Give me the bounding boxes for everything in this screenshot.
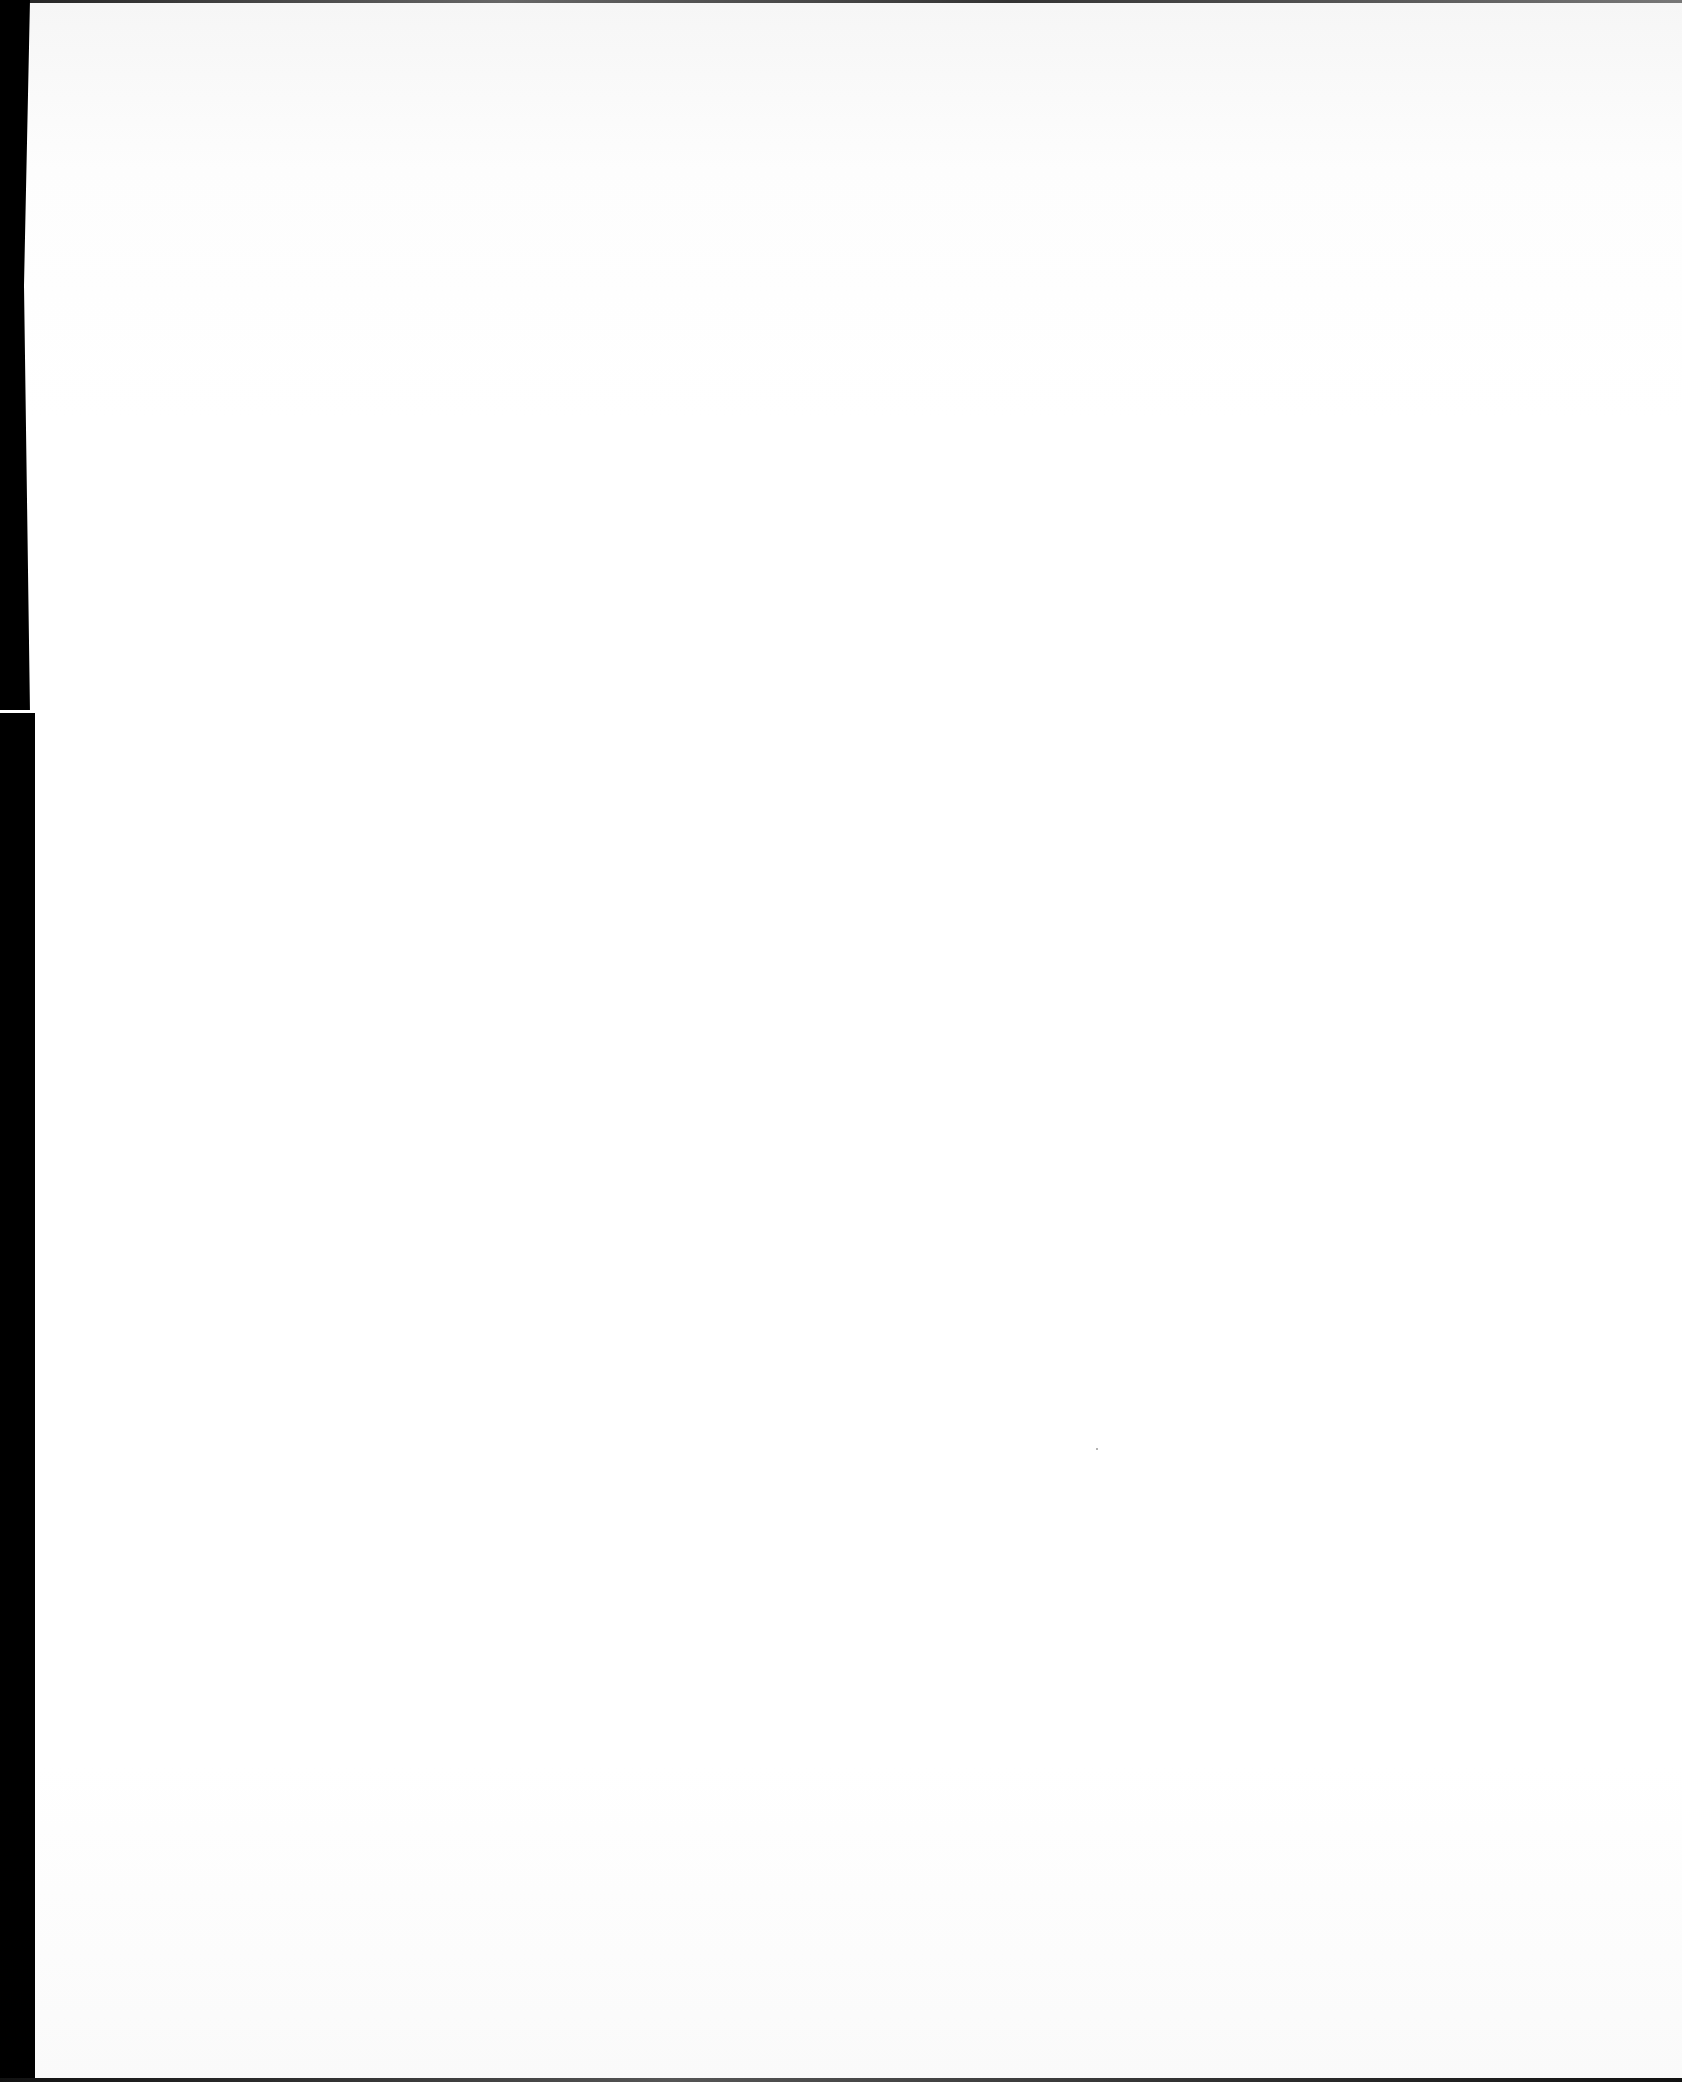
paper-texture [30, 3, 1682, 2078]
blank-page [30, 3, 1682, 2078]
dust-speck [1096, 1448, 1098, 1450]
scan-border-left-lower [0, 713, 35, 2082]
scan-notch [0, 710, 40, 713]
scan-border-left [0, 0, 30, 713]
scan-border-top [0, 0, 1682, 3]
scan-border-bottom [0, 2078, 1682, 2082]
